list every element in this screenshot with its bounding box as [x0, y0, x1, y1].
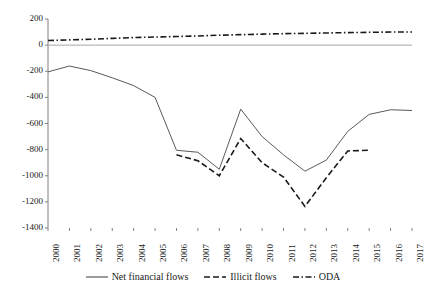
legend-item[interactable]: Net financial flows [86, 272, 189, 282]
y-axis-tick-label: -800 [27, 145, 44, 154]
y-axis-tick-label: 200 [30, 14, 44, 23]
x-axis-tick-label: 2015 [373, 244, 382, 262]
chart-legend: Net financial flowsIllicit flowsODA [0, 272, 426, 282]
legend-item[interactable]: ODA [293, 272, 341, 282]
y-axis-tick-label: -1400 [22, 223, 43, 232]
legend-item-label: Illicit flows [230, 272, 276, 282]
y-axis-tick-label: 0 [39, 40, 44, 49]
chart-series [48, 32, 412, 206]
x-axis-tick-label: 2003 [116, 244, 125, 262]
y-axis-tick-label: -600 [27, 119, 44, 128]
x-axis-tick-label: 2016 [395, 244, 404, 262]
legend-item[interactable]: Illicit flows [204, 272, 276, 282]
x-axis-tick-label: 2013 [330, 244, 339, 262]
x-axis-tick-label: 2017 [416, 244, 425, 262]
line-chart-plot [0, 0, 426, 296]
x-axis-tick-label: 2002 [95, 244, 104, 262]
legend-line-swatch-dashed-icon [204, 273, 226, 281]
x-axis-tick-label: 2007 [202, 244, 211, 262]
x-axis-tick-label: 2012 [309, 244, 318, 262]
series-line [48, 66, 412, 171]
x-axis-tick-label: 2008 [223, 244, 232, 262]
y-axis-tick-label: -1200 [22, 197, 43, 206]
legend-line-swatch-dash-dot-icon [293, 273, 315, 281]
x-axis-tick-label: 2004 [138, 244, 147, 262]
legend-item-label: Net financial flows [112, 272, 189, 282]
y-axis-tick-label: -200 [27, 66, 44, 75]
x-axis-tick-label: 2001 [73, 244, 82, 262]
x-axis-tick-label: 2005 [159, 244, 168, 262]
x-axis-tick-label: 2014 [352, 244, 361, 262]
x-axis-tick-label: 2006 [180, 244, 189, 262]
series-line [48, 32, 412, 40]
x-axis-tick-label: 2010 [266, 244, 275, 262]
chart-axes [45, 19, 412, 231]
chart-figure: 2000-200-400-600-800-1000-1200-1400 2000… [0, 0, 426, 296]
series-line [176, 139, 369, 207]
x-axis-tick-label: 2009 [245, 244, 254, 262]
x-axis-tick-label: 2011 [288, 244, 297, 262]
legend-line-swatch-solid-icon [86, 273, 108, 281]
y-axis-tick-label: -1000 [22, 171, 43, 180]
x-axis-tick-label: 2000 [52, 244, 61, 262]
legend-item-label: ODA [319, 272, 341, 282]
y-axis-tick-label: -400 [27, 92, 44, 101]
